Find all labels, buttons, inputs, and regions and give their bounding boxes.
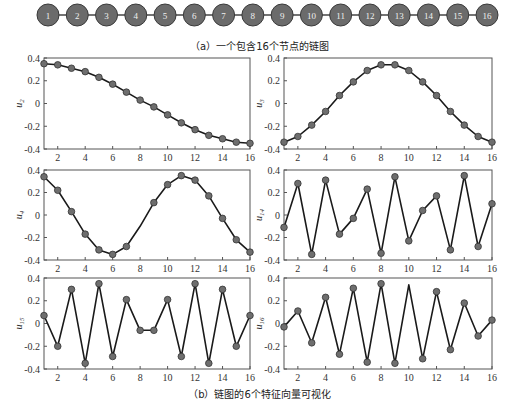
data-point [475, 243, 482, 250]
x-tick-label: 16 [245, 263, 255, 274]
y-tick-label: 0 [35, 210, 40, 221]
y-axis-label: u2 [13, 99, 26, 108]
data-point [164, 296, 171, 303]
y-tick-label: -0.2 [264, 121, 280, 132]
data-point [350, 215, 357, 222]
x-tick-label: 2 [55, 263, 60, 274]
x-tick-label: 12 [190, 263, 200, 274]
y-tick-label: 0.4 [28, 53, 41, 64]
x-tick-label: 12 [432, 372, 442, 383]
x-tick-label: 2 [295, 263, 300, 274]
y-tick-label: 0.4 [28, 165, 41, 176]
data-point [178, 172, 185, 179]
x-tick-label: 12 [432, 263, 442, 274]
x-tick-label: 16 [245, 152, 255, 163]
x-tick-label: 2 [55, 372, 60, 383]
plot-frame [44, 278, 250, 369]
data-point [378, 250, 385, 257]
x-tick-label: 10 [163, 152, 173, 163]
data-point [433, 193, 440, 200]
data-point [322, 177, 329, 184]
x-tick-label: 8 [379, 263, 384, 274]
y-tick-label: -0.4 [264, 255, 280, 266]
x-tick-label: 4 [323, 372, 328, 383]
data-point [322, 294, 329, 301]
data-point [233, 236, 240, 243]
data-point [322, 108, 329, 115]
data-point [281, 324, 288, 331]
data-point [308, 251, 315, 258]
y-axis-label: u16 [253, 317, 266, 330]
data-point [364, 67, 371, 74]
y-tick-label: 0.2 [268, 187, 281, 198]
data-point [419, 355, 426, 362]
y-tick-label: -0.4 [264, 144, 280, 155]
x-tick-label: 10 [404, 152, 414, 163]
data-point [392, 173, 399, 180]
y-tick-label: -0.2 [24, 121, 40, 132]
data-point [206, 193, 213, 200]
x-tick-label: 8 [138, 372, 143, 383]
data-point [364, 359, 371, 366]
data-point [178, 353, 185, 360]
data-point [68, 286, 75, 293]
data-point [406, 67, 413, 74]
data-point [281, 224, 288, 231]
data-point [419, 79, 426, 86]
data-point [433, 92, 440, 99]
series-line [284, 284, 492, 364]
y-tick-label: 0.4 [268, 165, 281, 176]
subplot-u4: 0.40.20-0.2-0.4246810121416u4 [13, 165, 255, 275]
subplot-u14: 0.40.20-0.2-0.4246810121416u14 [253, 165, 497, 275]
data-point [219, 215, 226, 222]
x-tick-label: 6 [110, 263, 115, 274]
data-point [109, 353, 116, 360]
y-tick-label: -0.2 [24, 232, 40, 243]
data-point [41, 173, 48, 180]
data-point [96, 280, 103, 287]
y-tick-label: 0.4 [28, 273, 41, 284]
data-point [54, 62, 61, 69]
x-tick-label: 6 [110, 152, 115, 163]
x-tick-label: 16 [487, 263, 497, 274]
x-tick-label: 14 [459, 152, 469, 163]
x-tick-label: 12 [190, 372, 200, 383]
x-tick-label: 2 [295, 372, 300, 383]
x-tick-label: 8 [379, 372, 384, 383]
data-point [151, 327, 158, 334]
x-tick-label: 4 [323, 152, 328, 163]
data-point [295, 133, 302, 140]
y-axis-label: u14 [253, 209, 266, 222]
x-tick-label: 16 [245, 372, 255, 383]
data-point [41, 60, 48, 67]
eigenvector-plots: 0.40.20-0.2-0.4246810121416u20.40.20-0.2… [0, 0, 519, 405]
x-tick-label: 14 [459, 263, 469, 274]
data-point [233, 139, 240, 146]
y-tick-label: 0.2 [28, 187, 41, 198]
data-point [433, 288, 440, 295]
data-point [109, 81, 116, 88]
data-point [419, 207, 426, 214]
x-tick-label: 4 [83, 263, 88, 274]
series-line [284, 65, 492, 142]
data-point [123, 296, 130, 303]
x-tick-label: 8 [138, 152, 143, 163]
data-point [489, 317, 496, 324]
x-tick-label: 16 [487, 152, 497, 163]
y-axis-label: u3 [253, 99, 266, 108]
y-tick-label: 0 [275, 210, 280, 221]
subplot-u16: 0.40.20-0.2-0.4246810121416u16 [253, 273, 497, 384]
subplot-u2: 0.40.20-0.2-0.4246810121416u2 [13, 53, 255, 164]
data-point [308, 122, 315, 129]
y-tick-label: -0.4 [24, 144, 40, 155]
data-point [41, 312, 48, 319]
y-tick-label: -0.2 [264, 341, 280, 352]
x-tick-label: 10 [163, 372, 173, 383]
data-point [281, 139, 288, 146]
data-point [378, 62, 385, 69]
y-tick-label: 0.4 [268, 53, 281, 64]
data-point [447, 247, 454, 254]
y-tick-label: 0 [275, 318, 280, 329]
data-point [489, 200, 496, 207]
data-point [192, 280, 199, 287]
